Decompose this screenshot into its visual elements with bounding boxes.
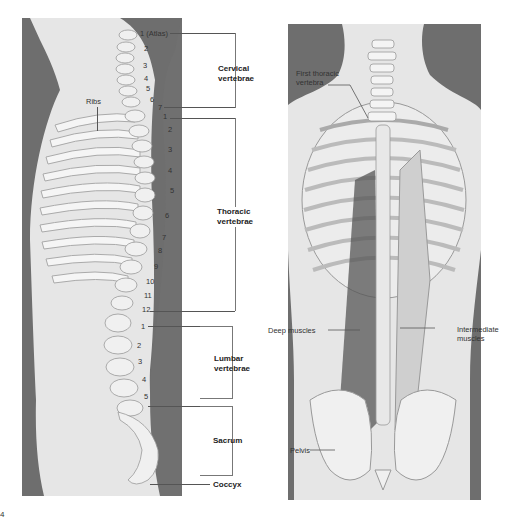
- first-thoracic-vertebra-label: First thoracic vertebra: [296, 69, 339, 87]
- cervical-region-label: Cervical vertebrae: [218, 64, 254, 84]
- cervical-4: 4: [144, 74, 148, 83]
- ribs-leader-line: [97, 107, 98, 131]
- lumbar-region-label: Lumbar vertebrae: [214, 354, 250, 374]
- thoracic-region-label: Thoracic vertebrae: [217, 207, 253, 227]
- thoracic-12: 12: [142, 305, 150, 314]
- thoracic-8: 8: [158, 246, 162, 255]
- thoracic-1: 1: [163, 112, 167, 121]
- left-figure-lateral-spine: Ribs 1 (Atlas) 2 3 4 5 6 7 Cervical vert…: [0, 0, 280, 524]
- thoracic-9: 9: [154, 262, 158, 271]
- pelvis-label: Pelvis: [290, 446, 310, 455]
- coccyx-leader: [150, 484, 210, 485]
- lumbar-5: 5: [144, 392, 148, 401]
- cervical-5: 5: [146, 84, 150, 93]
- thoracic-bottom-leader: [150, 311, 235, 312]
- intermediate-muscles-label: Intermediate muscles: [457, 325, 499, 343]
- ribs-label: Ribs: [86, 97, 101, 106]
- cervical-2: 2: [144, 44, 148, 53]
- lumbar-2: 2: [137, 341, 141, 350]
- lumbar-3: 3: [138, 357, 142, 366]
- thoracic-6: 6: [165, 211, 169, 220]
- right-figure-posterior-back: First thoracic vertebra Deep muscles Int…: [280, 0, 527, 524]
- lumbar-1: 1: [141, 322, 145, 331]
- coccyx-label: Coccyx: [213, 480, 241, 490]
- cervical-3: 3: [143, 61, 147, 70]
- sacrum-label: Sacrum: [213, 436, 242, 446]
- thoracic-4: 4: [168, 166, 172, 175]
- lumbar-4: 4: [142, 375, 146, 384]
- thoracic-3: 3: [168, 145, 172, 154]
- thoracic-10: 10: [146, 277, 154, 286]
- cervical-1-atlas: 1 (Atlas): [140, 29, 168, 38]
- thoracic-7: 7: [162, 233, 166, 242]
- thoracic-5: 5: [170, 186, 174, 195]
- thoracic-2: 2: [168, 125, 172, 134]
- figure-number: 4: [0, 510, 4, 519]
- deep-muscles-label: Deep muscles: [268, 326, 316, 335]
- cervical-7: 7: [158, 103, 162, 112]
- cervical-6: 6: [150, 95, 154, 104]
- thoracic-11: 11: [144, 291, 152, 300]
- cervical-bottom-leader: [164, 107, 235, 108]
